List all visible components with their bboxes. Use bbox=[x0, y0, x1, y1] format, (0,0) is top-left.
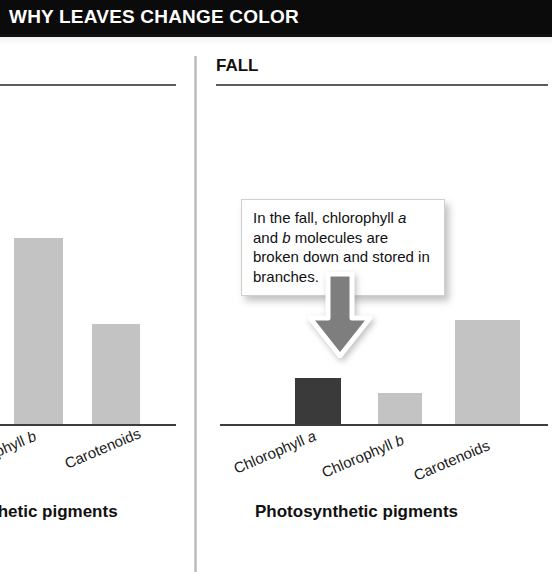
summer-label-chlorophyll-b: phyll b bbox=[0, 427, 39, 460]
bar-carotenoids bbox=[92, 324, 140, 424]
summer-chart-caption: thetic pigments bbox=[0, 502, 118, 522]
fall-panel: FALL Chlorophyll a Chlorophyll b Caroten… bbox=[198, 46, 552, 572]
down-arrow-icon bbox=[306, 272, 374, 358]
summer-panel-rule bbox=[0, 84, 176, 86]
callout-italic-a: a bbox=[398, 209, 406, 226]
fall-label-chlorophyll-a: Chlorophyll a bbox=[231, 427, 318, 477]
callout-italic-b: b bbox=[282, 229, 290, 246]
fall-panel-rule bbox=[216, 84, 548, 86]
page-texture bbox=[0, 37, 552, 46]
callout-text-part-1: In the fall, chlorophyll bbox=[253, 209, 398, 226]
panel-divider bbox=[194, 56, 197, 572]
fall-label-carotenoids: Carotenoids bbox=[411, 436, 492, 483]
fall-axis-line bbox=[220, 424, 548, 426]
bar-chlorophyll-b bbox=[14, 238, 63, 424]
fall-label-chlorophyll-b: Chlorophyll b bbox=[319, 431, 406, 481]
callout-text-part-2: and bbox=[253, 229, 282, 246]
bar-chlorophyll-a bbox=[295, 378, 341, 424]
fall-label-chlorophyll-b-text: Chlorophyll bbox=[319, 434, 399, 481]
fall-panel-heading: FALL bbox=[216, 56, 259, 76]
bar-carotenoids bbox=[455, 320, 520, 424]
summer-panel: phyll b Carotenoids thetic pigments bbox=[0, 46, 194, 572]
page-title: WHY LEAVES CHANGE COLOR bbox=[9, 5, 299, 29]
summer-axis-line bbox=[0, 424, 176, 426]
fall-label-carotenoids-text: Carotenoids bbox=[411, 436, 492, 483]
summer-label-carotenoids-text: Carotenoids bbox=[62, 424, 143, 471]
bar-chlorophyll-b bbox=[378, 393, 422, 424]
fall-label-chlorophyll-a-text: Chlorophyll bbox=[231, 430, 311, 477]
summer-label-carotenoids: Carotenoids bbox=[62, 424, 143, 471]
fall-chart-caption: Photosynthetic pigments bbox=[255, 502, 458, 522]
